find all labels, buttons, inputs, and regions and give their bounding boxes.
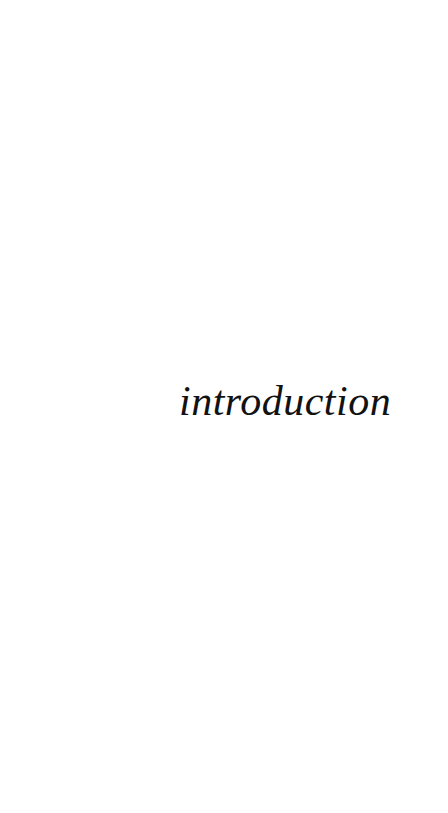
section-title-block: introduction: [0, 356, 448, 420]
section-divider-page: introduction: [0, 0, 448, 813]
section-title: introduction: [179, 380, 391, 422]
page-header-zone: [0, 0, 448, 1]
